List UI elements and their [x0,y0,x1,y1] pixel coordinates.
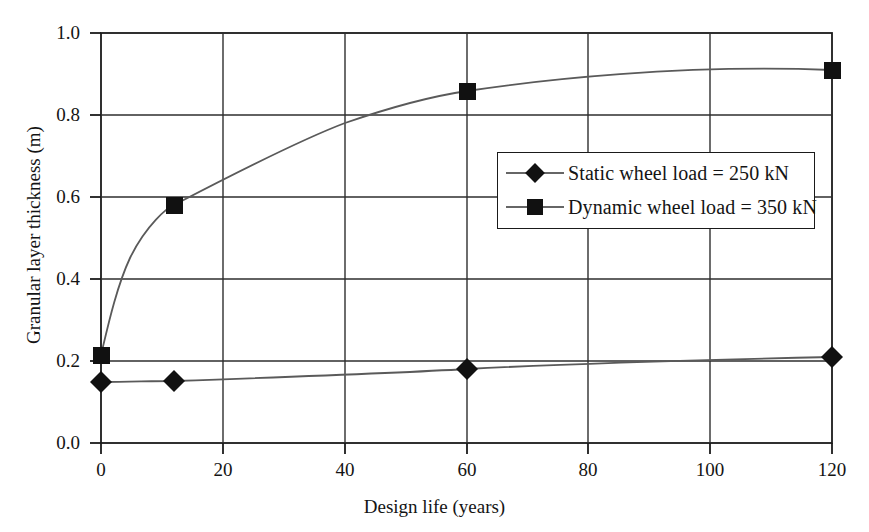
plot-canvas [0,0,869,532]
x-tick-label-0: 0 [71,459,131,481]
chart-figure: 1.0 0.8 0.6 0.4 0.2 0.0 0 20 40 60 80 10… [0,0,869,532]
data-point-marker [166,197,183,214]
legend-sample-dynamic [506,196,564,218]
data-point-marker [459,83,476,100]
x-axis-ticks [101,443,832,454]
diamond-marker-icon [525,163,545,183]
x-tick-label-80: 80 [558,459,618,481]
data-point-marker [93,347,110,364]
x-tick-label-120: 120 [802,459,862,481]
x-axis-title: Design life (years) [0,496,869,518]
x-tick-label-40: 40 [315,459,375,481]
data-point-marker [824,62,841,79]
legend-sample-static [506,162,564,184]
legend-label-dynamic: Dynamic wheel load = 350 kN [564,196,817,219]
legend-label-static: Static wheel load = 250 kN [564,162,789,185]
legend-entry-dynamic: Dynamic wheel load = 350 kN [506,190,817,224]
legend-entry-static: Static wheel load = 250 kN [506,156,789,190]
chart-legend: Static wheel load = 250 kN Dynamic wheel… [497,152,815,229]
x-tick-label-60: 60 [437,459,497,481]
square-marker-icon [527,199,543,215]
y-axis-title: Granular layer thickness (m) [23,25,45,445]
x-tick-label-20: 20 [193,459,253,481]
x-tick-label-100: 100 [680,459,740,481]
